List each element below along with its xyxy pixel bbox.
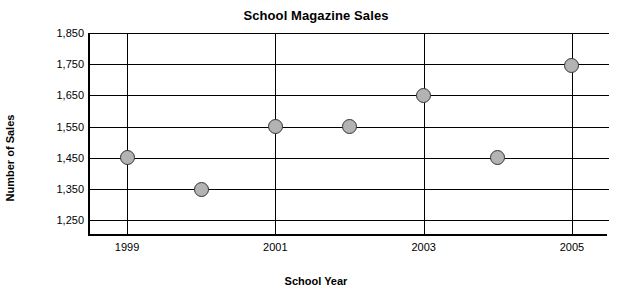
x-axis-tick-label: 2003 <box>394 241 454 253</box>
y-axis-tick-label: 1,650 <box>24 89 84 101</box>
chart-container: School Magazine Sales Number of Sales 1,… <box>0 0 632 304</box>
y-gridline <box>90 64 609 65</box>
plot-area: 1,2501,3501,4501,5501,6501,7501,85019992… <box>88 33 607 236</box>
y-gridline <box>90 33 609 34</box>
y-gridline <box>90 220 609 221</box>
y-axis-tick-label: 1,250 <box>24 214 84 226</box>
y-gridline <box>90 189 609 190</box>
y-axis-tick-label: 1,850 <box>24 27 84 39</box>
data-point <box>416 88 431 103</box>
x-axis-tick-label: 2001 <box>245 241 305 253</box>
data-point <box>490 150 505 165</box>
data-point <box>564 58 579 73</box>
x-gridline <box>127 33 128 236</box>
data-point <box>194 182 209 197</box>
x-axis-label: School Year <box>0 275 632 287</box>
x-gridline <box>275 33 276 236</box>
y-gridline <box>90 158 609 159</box>
data-point <box>120 150 135 165</box>
y-gridline <box>90 95 609 96</box>
x-axis-tick-label: 2005 <box>542 241 602 253</box>
chart-title: School Magazine Sales <box>0 8 632 23</box>
y-axis-label: Number of Sales <box>4 88 16 228</box>
y-axis-tick-label: 1,350 <box>24 183 84 195</box>
x-axis-tick-label: 1999 <box>97 241 157 253</box>
x-gridline <box>424 33 425 236</box>
y-axis-tick-label: 1,450 <box>24 152 84 164</box>
y-axis-tick-label: 1,750 <box>24 58 84 70</box>
data-point <box>268 119 283 134</box>
data-point <box>342 119 357 134</box>
y-axis-tick-label: 1,550 <box>24 121 84 133</box>
